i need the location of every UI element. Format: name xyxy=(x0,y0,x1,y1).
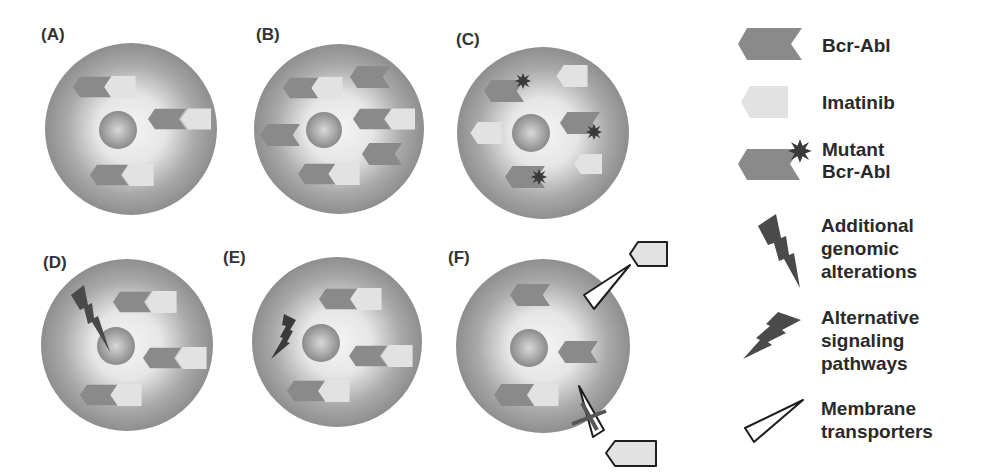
legend-label: Alternative xyxy=(821,307,919,328)
legend-label: transporters xyxy=(821,421,933,442)
panel-label-e: (E) xyxy=(223,248,246,267)
nucleus xyxy=(306,112,342,148)
lightning-genomic-icon xyxy=(758,214,800,288)
panel-d: (D) xyxy=(41,253,213,431)
legend-label: Bcr-Abl xyxy=(822,35,891,56)
legend-item-imatinib: Imatinib xyxy=(741,86,895,118)
panel-label-b: (B) xyxy=(256,25,280,44)
legend-item-alternative-signaling: Alternative signaling pathways xyxy=(743,307,919,374)
panel-f: (F) xyxy=(448,242,667,466)
panel-label-d: (D) xyxy=(43,253,67,272)
legend-item-genomic-alterations: Additional genomic alterations xyxy=(758,214,917,288)
panel-b: (B) xyxy=(254,25,424,214)
nucleus xyxy=(512,114,550,152)
panel-e: (E) xyxy=(223,248,422,427)
legend-item-mutant-bcr-abl: Mutant Bcr-Abl xyxy=(738,139,891,182)
legend-label: Mutant xyxy=(822,139,885,160)
legend-label: genomic xyxy=(821,238,900,259)
panel-a: (A) xyxy=(41,25,217,215)
nucleus xyxy=(99,111,137,149)
nucleus xyxy=(302,324,340,362)
legend-label: Additional xyxy=(821,215,914,236)
imatinib-icon xyxy=(741,86,788,118)
legend-label: Bcr-Abl xyxy=(822,161,891,182)
mutation-star-icon xyxy=(531,169,547,185)
legend-label: signaling xyxy=(821,330,904,351)
legend-label: alterations xyxy=(821,261,917,282)
panel-c: (C) xyxy=(456,30,629,219)
legend-item-bcr-abl: Bcr-Abl xyxy=(738,28,891,60)
panel-label-a: (A) xyxy=(41,25,65,44)
mutation-star-icon xyxy=(586,124,602,140)
legend-label: Membrane xyxy=(821,398,916,419)
legend-label: Imatinib xyxy=(822,92,895,113)
legend-label: pathways xyxy=(821,353,908,374)
nucleus xyxy=(510,329,548,367)
imatinib-effluxed-icon xyxy=(630,242,667,266)
mutation-star-icon xyxy=(788,139,811,162)
legend-item-membrane-transporters: Membrane transporters xyxy=(745,398,933,442)
bcr-abl-icon xyxy=(738,28,802,60)
mutation-star-icon xyxy=(515,73,531,89)
resistance-mechanisms-figure: (A) (B) (C) xyxy=(0,0,989,474)
membrane-transporter-icon xyxy=(745,400,803,442)
legend: Bcr-Abl Imatinib Mutant Bcr-Abl Addition… xyxy=(738,28,933,442)
mutant-bcr-abl-icon xyxy=(738,149,800,180)
imatinib-outside-icon xyxy=(606,441,656,466)
panel-label-c: (C) xyxy=(456,30,480,49)
panel-label-f: (F) xyxy=(448,248,470,267)
lightning-signaling-icon xyxy=(743,312,801,359)
